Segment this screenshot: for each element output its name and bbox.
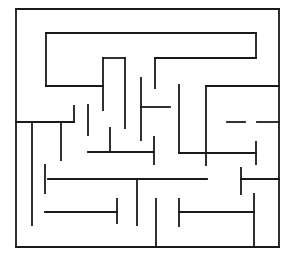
maze-diagram <box>0 0 295 255</box>
maze-walls <box>16 33 279 247</box>
